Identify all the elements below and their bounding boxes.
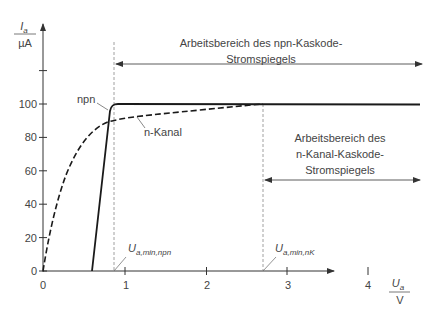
x-tick-label-3: 3: [285, 279, 291, 291]
svg-text:Ua: Ua: [392, 277, 405, 292]
curve-npn: [92, 104, 420, 271]
svg-text:npn: npn: [77, 93, 95, 105]
x-tick-label-1: 1: [123, 279, 129, 291]
y-tick-label-60: 60: [25, 165, 37, 177]
y-tick-label-0: 0: [31, 265, 37, 277]
y-tick-label-100: 100: [19, 98, 37, 110]
svg-text:Ia: Ia: [20, 20, 28, 35]
x-tick-label-0: 0: [40, 279, 46, 291]
svg-text:Ua,min,npn: Ua,min,npn: [128, 242, 172, 257]
y-tick-label-20: 20: [25, 232, 37, 244]
vline-ua-min-npn: Ua,min,npn: [114, 42, 172, 271]
svg-text:Arbeitsbereich des npn-Kaskode: Arbeitsbereich des npn-Kaskode-: [180, 37, 343, 49]
vline-ua-min-nk: Ua,min,nK: [263, 104, 315, 271]
range-nkanal-kaskode: Arbeitsbereich des n-Kanal-Kaskode- Stro…: [265, 132, 420, 180]
chart: 0 20 40 60 80 100 Ia µA 0 1 2 3 4 Ua V: [0, 0, 436, 318]
svg-text:µA: µA: [18, 37, 32, 49]
label-npn: npn: [77, 93, 108, 110]
x-axis: 0 1 2 3 4 Ua V: [40, 267, 410, 306]
range-npn-kaskode: Arbeitsbereich des npn-Kaskode- Stromspi…: [116, 37, 422, 65]
svg-text:Stromspiegels: Stromspiegels: [226, 53, 296, 65]
y-axis: 0 20 40 60 80 100 Ia µA: [14, 20, 47, 277]
svg-text:V: V: [396, 294, 404, 306]
y-tick-label-80: 80: [25, 131, 37, 143]
svg-text:n-Kanal: n-Kanal: [144, 126, 182, 138]
x-tick-label-2: 2: [204, 279, 210, 291]
y-tick-label-40: 40: [25, 198, 37, 210]
label-n-kanal: n-Kanal: [137, 117, 182, 138]
x-tick-label-4: 4: [365, 279, 371, 291]
svg-text:Ua,min,nK: Ua,min,nK: [275, 242, 315, 257]
svg-text:n-Kanal-Kaskode-: n-Kanal-Kaskode-: [296, 148, 384, 160]
x-axis-label: Ua V: [389, 277, 410, 306]
svg-text:Arbeitsbereich des: Arbeitsbereich des: [294, 132, 386, 144]
svg-text:Stromspiegels: Stromspiegels: [305, 164, 375, 176]
y-axis-label: Ia µA: [14, 20, 36, 49]
